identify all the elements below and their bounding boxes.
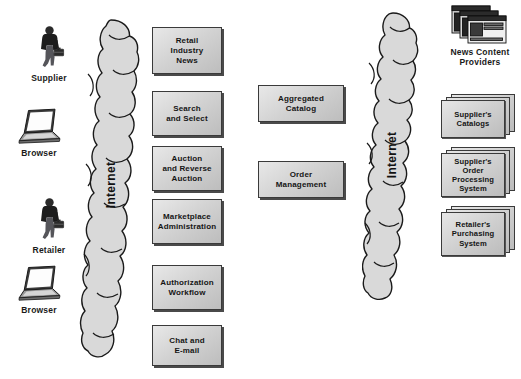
cloud-label: Internet [104,145,118,225]
service-box-label: Marketplace Administration [155,212,220,232]
node-suppliers-catalogs[interactable]: Supplier's Catalogs [441,94,515,138]
stacked-browser-windows-icon [450,4,510,46]
service-box-label: Retail Industry News [168,36,207,66]
service-box-label: Search and Select [163,104,211,124]
node-retailers-purchasing-system[interactable]: Retailer's Purchasing System [441,206,515,256]
actor-label: Supplier [31,74,67,84]
node-label: Supplier's Order Processing System [452,157,494,193]
laptop-icon [14,107,64,147]
actor-label: Browser [21,149,56,159]
actor-retailer: Retailer [10,196,88,256]
node-label: Retailer's Purchasing System [452,220,494,247]
service-box-auction-and-reverse-auction[interactable]: Auction and Reverse Auction [152,146,222,191]
service-box-label: Chat and E-mail [166,336,207,356]
actor-browser-bottom: Browser [0,264,78,316]
actor-label: Browser [21,306,56,316]
person-with-briefcase-icon [29,24,69,72]
node-label: News Content Providers [450,48,509,67]
actor-supplier: Supplier [10,24,88,84]
laptop-icon [14,264,64,304]
service-box-search-and-select[interactable]: Search and Select [152,91,222,136]
core-box-aggregated-catalog[interactable]: Aggregated Catalog [258,85,344,122]
right-internet-cloud: Internet [362,8,422,306]
core-box-label: Aggregated Catalog [275,94,327,114]
person-with-briefcase-icon [29,196,69,244]
cloud-label: Internet [385,115,399,195]
actor-label: Retailer [33,246,66,256]
actor-browser-top: Browser [0,107,78,159]
stack-sheet-front: Supplier's Order Processing System [441,153,505,197]
left-internet-cloud: Internet [78,14,144,366]
node-news-content-providers: News Content Providers [441,4,519,67]
diagram-canvas: Supplier Browser Retailer [0,0,521,379]
service-box-label: Authorization Workflow [157,278,217,298]
stack-sheet-front: Supplier's Catalogs [441,100,505,138]
node-suppliers-order-processing-system[interactable]: Supplier's Order Processing System [441,147,515,197]
core-box-order-management[interactable]: Order Management [258,161,344,198]
service-box-label: Auction and Reverse Auction [159,154,214,184]
stack-sheet-front: Retailer's Purchasing System [441,212,505,256]
core-box-label: Order Management [273,170,329,190]
service-box-authorization-workflow[interactable]: Authorization Workflow [152,265,222,310]
service-box-retail-industry-news[interactable]: Retail Industry News [152,27,222,74]
node-label: Supplier's Catalogs [454,110,491,128]
service-box-marketplace-administration[interactable]: Marketplace Administration [152,199,222,244]
service-box-chat-and-email[interactable]: Chat and E-mail [152,325,222,366]
